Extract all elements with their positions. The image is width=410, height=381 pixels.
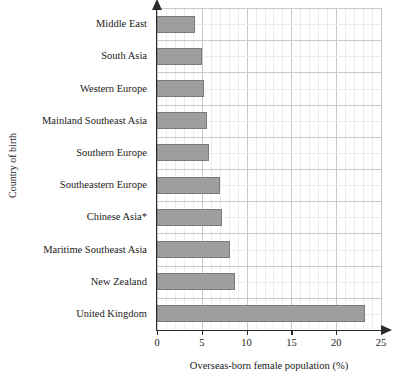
y-axis-tick-labels: Middle EastSouth AsiaWestern EuropeMainl… <box>0 8 152 330</box>
x-axis-tick-label: 20 <box>321 337 351 348</box>
x-axis-arrow-icon <box>381 325 392 335</box>
gridline-horizontal-major <box>157 201 381 202</box>
gridline-horizontal-major <box>157 169 381 170</box>
bar <box>157 16 195 33</box>
gridline-horizontal-major <box>157 298 381 299</box>
x-axis-title: Overseas-born female population (%) <box>157 360 381 371</box>
y-axis-tick-label: New Zealand <box>91 276 147 288</box>
y-axis-tick-label: Western Europe <box>80 83 147 95</box>
y-axis-tick-label: Chinese Asia* <box>87 211 147 223</box>
gridline-horizontal-major <box>157 40 381 41</box>
gridline-horizontal-major <box>157 137 381 138</box>
x-axis-tick-label: 15 <box>276 337 306 348</box>
gridline-horizontal-major <box>157 233 381 234</box>
x-axis-tick-label: 25 <box>366 337 396 348</box>
x-axis-tick <box>291 330 292 335</box>
x-axis-tick <box>247 330 248 335</box>
bar <box>157 305 365 322</box>
y-axis-tick-label: Southern Europe <box>76 147 147 159</box>
bar <box>157 48 202 65</box>
x-axis-line <box>156 330 382 331</box>
x-axis-tick <box>202 330 203 335</box>
y-axis-tick-label: Maritime Southeast Asia <box>43 244 147 256</box>
y-axis-tick-label: United Kingdom <box>76 308 147 320</box>
gridline-horizontal-major <box>157 105 381 106</box>
gridline-horizontal-major <box>157 8 381 9</box>
bar <box>157 177 220 194</box>
x-axis-tick-label: 5 <box>187 337 217 348</box>
y-axis-tick-label: Middle East <box>96 18 147 30</box>
x-axis-tick <box>381 330 382 335</box>
y-axis-arrow-icon <box>152 0 162 10</box>
x-axis-tick-label: 0 <box>142 337 172 348</box>
plot-area <box>157 8 381 330</box>
gridline-vertical-major <box>381 8 382 330</box>
x-axis-tick <box>157 330 158 335</box>
x-axis-tick-label: 10 <box>232 337 262 348</box>
bar <box>157 80 204 97</box>
y-axis-tick-label: South Asia <box>101 50 147 62</box>
bar <box>157 209 222 226</box>
y-axis-line <box>156 8 157 330</box>
bar <box>157 273 235 290</box>
gridline-horizontal-major <box>157 72 381 73</box>
bar-chart: Country of birth Middle EastSouth AsiaWe… <box>0 0 410 381</box>
y-axis-tick-label: Southeastern Europe <box>60 179 147 191</box>
x-axis-tick <box>336 330 337 335</box>
bar <box>157 144 209 161</box>
bar <box>157 241 230 258</box>
y-axis-tick-label: Mainland Southeast Asia <box>42 115 147 127</box>
bar <box>157 112 207 129</box>
gridline-horizontal-major <box>157 266 381 267</box>
